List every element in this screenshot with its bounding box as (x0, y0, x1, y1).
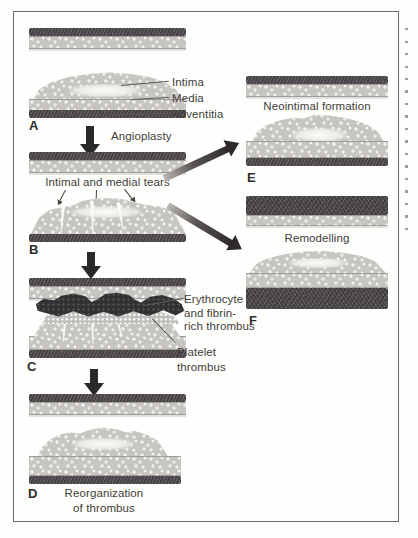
angioplasty-label: Angioplasty (111, 130, 172, 144)
adventitia-band (29, 28, 186, 36)
adventitia-label: Adventitia (172, 108, 224, 122)
intima-label: Intima (172, 76, 204, 90)
media-band (29, 36, 186, 49)
plaque-core (292, 128, 347, 142)
tear-pointer-icon (59, 190, 66, 201)
plaque-core (72, 438, 134, 450)
panel-d-caption: Reorganization of thrombus (49, 486, 159, 516)
adventitia-band (29, 394, 186, 402)
adventitia-band (29, 350, 186, 358)
adventitia-band (29, 234, 186, 242)
erythrocyte-label: Erythrocyte and fibrin- rich thrombus (184, 293, 255, 334)
adventitia-band (29, 152, 186, 160)
thickened-adventitia-band (246, 196, 388, 215)
panel-a-letter: A (29, 118, 38, 133)
media-label: Media (172, 92, 204, 106)
media-band (29, 160, 186, 173)
remodelling-caption: Remodelling (246, 232, 388, 246)
plaque-core (289, 258, 347, 268)
thickened-adventitia-band (246, 288, 388, 309)
panel-b-letter: B (29, 242, 38, 257)
adventitia-band (29, 476, 181, 484)
plaque-core (71, 206, 141, 218)
tear-pointer-icon (124, 189, 132, 199)
adventitia-band (246, 158, 388, 166)
figure-frame: A Intima Media Adventitia Angioplasty In… (13, 11, 399, 522)
platelet-label: Platelet thrombus (177, 345, 226, 374)
down-arrow-icon (87, 252, 95, 266)
down-arrow-icon (90, 369, 98, 383)
adventitia-band (29, 278, 186, 286)
media-band (246, 215, 388, 226)
panel-c-letter: C (27, 359, 36, 374)
down-arrow-icon (86, 126, 94, 144)
media-band (246, 273, 388, 288)
media-band (29, 456, 181, 476)
tears-label: Intimal and medial tears (29, 176, 186, 190)
media-band (29, 402, 186, 415)
plaque-core (69, 84, 141, 97)
neointimal-caption: Neointimal formation (246, 100, 388, 114)
page-edge-text-artifact (405, 28, 408, 234)
media-band (246, 84, 388, 97)
panel-d-letter: D (28, 486, 37, 501)
media-band (29, 336, 186, 350)
adventitia-band (246, 76, 388, 84)
panel-e-letter: E (247, 170, 256, 185)
media-band (246, 141, 388, 158)
